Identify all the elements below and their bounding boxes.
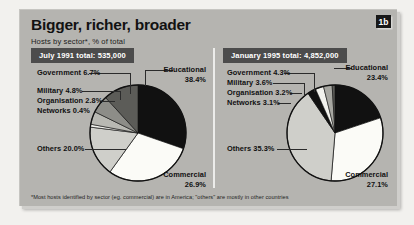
chart-footnote: *Most hosts identified by sector (eg. co… (31, 194, 289, 200)
label-educational-value-1991: 38.4% (185, 75, 206, 84)
panel-title-1991: July 1991 total: 535,000 (31, 48, 134, 63)
label-educational-name-1991: Educational (164, 65, 206, 74)
chart-subtitle: Hosts by sector*, % of total (31, 37, 125, 46)
label-military-1995: Military 3.6% (227, 78, 272, 88)
chart-figure: Bigger, richer, broader Hosts by sector*… (19, 9, 397, 206)
label-educational-name-1995: Educational (346, 63, 388, 72)
leader-military-v (120, 91, 121, 100)
page-title: Bigger, richer, broader (31, 16, 191, 34)
label-government-1991: Government 6.7% (37, 68, 100, 78)
label-networks-1991: Networks 0.4% (37, 106, 90, 116)
label-commercial-1991: Commercial 26.9% (163, 170, 206, 189)
label-organisation-1991: Organisation 2.8% (37, 96, 102, 106)
leader-others (85, 149, 126, 150)
leader-government-v (314, 73, 315, 92)
leader-military (273, 83, 305, 84)
leader-military-v (304, 83, 305, 96)
leader-government-v (130, 73, 131, 94)
label-educational-1995: Educational 23.4% (346, 63, 388, 82)
label-commercial-value-1991: 26.9% (185, 180, 206, 189)
chart-panel-1995: January 1995 total: 4,852,000 (221, 48, 392, 190)
label-government-1995: Government 4.3% (227, 68, 290, 78)
label-others-1991: Others 20.0% (37, 144, 84, 154)
figure-badge: 1b (376, 15, 391, 28)
label-commercial-value-1995: 27.1% (367, 180, 388, 189)
panel-title-1995: January 1995 total: 4,852,000 (223, 48, 347, 63)
label-commercial-name-1995: Commercial (345, 170, 388, 179)
label-commercial-1995: Commercial 27.1% (345, 170, 388, 189)
chart-panel-1991: July 1991 total: 535,000 (29, 48, 208, 190)
label-organisation-1995: Organisation 3.2% (227, 88, 292, 98)
label-networks-1995: Networks 3.1% (227, 98, 280, 108)
label-commercial-name-1991: Commercial (163, 170, 206, 179)
label-others-1995: Others 35.3% (227, 144, 274, 154)
panel-divider (213, 48, 215, 188)
label-educational-value-1995: 23.4% (367, 73, 388, 82)
leader-others (277, 149, 307, 150)
leader-military (82, 91, 121, 92)
label-military-1991: Military 4.8% (37, 86, 82, 96)
leader-educational-v (145, 70, 146, 86)
label-educational-1991: Educational 38.4% (164, 65, 206, 84)
